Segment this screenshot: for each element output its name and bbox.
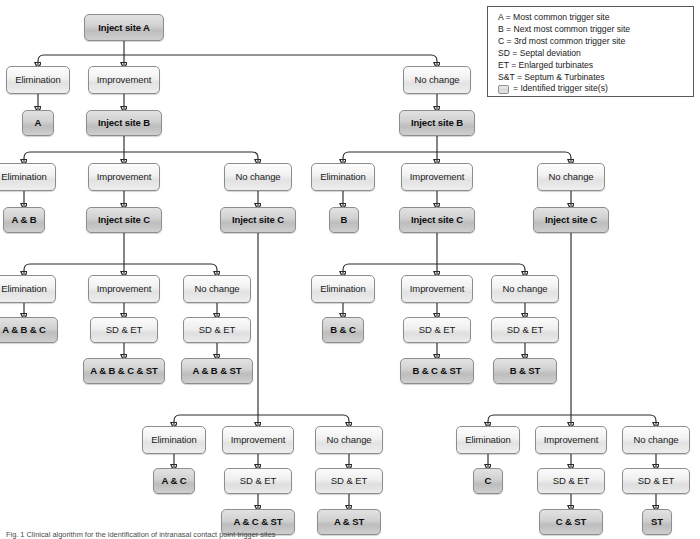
node-l3b-sd-et-improvement[interactable]: SD & ET	[403, 317, 471, 343]
node-l1-no-change[interactable]: No change	[403, 66, 471, 94]
node-l1-improvement[interactable]: Improvement	[88, 66, 160, 94]
node-l2b-inject-site-c[interactable]: Inject site C	[399, 207, 475, 233]
node-l3a-outcome-abc[interactable]: A & B & C	[0, 317, 58, 343]
node-l3a-sd-et-improvement[interactable]: SD & ET	[90, 317, 158, 343]
node-l1-inject-site-b[interactable]: Inject site B	[86, 110, 162, 136]
node-l2a-elimination[interactable]: Elimination	[0, 163, 56, 191]
node-l3b-elimination[interactable]: Elimination	[311, 275, 375, 303]
node-l2b-outcome-b[interactable]: B	[329, 207, 359, 233]
legend-row-b: B = Next most common trigger site	[498, 24, 693, 36]
node-l1-inject-site-b-right[interactable]: Inject site B	[399, 110, 475, 136]
node-l2a-inject-site-c-right[interactable]: Inject site C	[220, 207, 296, 233]
node-l4a-sd-et-no-change[interactable]: SD & ET	[315, 468, 383, 494]
node-l4b-sd-et-no-change[interactable]: SD & ET	[622, 468, 690, 494]
node-l2b-elimination[interactable]: Elimination	[311, 163, 375, 191]
legend-text-trigger-site: = Identified trigger site(s)	[513, 83, 608, 95]
node-l3b-improvement[interactable]: Improvement	[401, 275, 473, 303]
node-l4b-improvement[interactable]: Improvement	[535, 426, 607, 454]
node-l3b-outcome-bc[interactable]: B & C	[322, 317, 364, 343]
legend-row-a: A = Most common trigger site	[498, 12, 693, 24]
legend-row-trigger-site: = Identified trigger site(s)	[498, 83, 693, 95]
node-l3a-no-change[interactable]: No change	[183, 275, 251, 303]
node-l3a-outcome-abcst[interactable]: A & B & C & ST	[83, 358, 165, 384]
node-l3a-outcome-abst[interactable]: A & B & ST	[181, 358, 253, 384]
legend-box: A = Most common trigger site B = Next mo…	[487, 6, 694, 97]
node-l4a-improvement[interactable]: Improvement	[222, 426, 294, 454]
node-l2b-improvement[interactable]: Improvement	[401, 163, 473, 191]
node-l1-elimination[interactable]: Elimination	[6, 66, 70, 94]
legend-text-et: ET = Enlarged turbinates	[498, 60, 593, 72]
node-l4b-no-change[interactable]: No change	[622, 426, 690, 454]
node-l4b-sd-et-improvement[interactable]: SD & ET	[537, 468, 605, 494]
legend-row-et: ET = Enlarged turbinates	[498, 60, 693, 72]
trigger-site-swatch-icon	[498, 85, 509, 94]
node-l2a-outcome-ab[interactable]: A & B	[3, 207, 45, 233]
legend-row-c: C = 3rd most common trigger site	[498, 36, 693, 48]
node-l4a-no-change[interactable]: No change	[315, 426, 383, 454]
node-l3a-elimination[interactable]: Elimination	[0, 275, 56, 303]
flowchart-canvas: Inject site A Elimination Improvement No…	[0, 0, 700, 539]
node-l3b-outcome-bcst[interactable]: B & C & ST	[400, 358, 474, 384]
node-l3a-sd-et-no-change[interactable]: SD & ET	[183, 317, 251, 343]
node-l4a-elimination[interactable]: Elimination	[142, 426, 206, 454]
node-l4b-outcome-c[interactable]: C	[473, 468, 503, 494]
legend-text-sd: SD = Septal deviation	[498, 48, 581, 60]
legend-text-a: A = Most common trigger site	[498, 12, 610, 24]
node-inject-site-a[interactable]: Inject site A	[84, 14, 164, 41]
legend-row-st: S&T = Septum & Turbinates	[498, 72, 693, 84]
node-l2a-no-change[interactable]: No change	[224, 163, 292, 191]
node-l3b-outcome-bst[interactable]: B & ST	[493, 358, 557, 384]
node-l1-outcome-a[interactable]: A	[22, 110, 54, 136]
node-l2b-no-change[interactable]: No change	[537, 163, 605, 191]
legend-text-c: C = 3rd most common trigger site	[498, 36, 625, 48]
figure-caption: Fig. 1 Clinical algorithm for the identi…	[6, 530, 696, 539]
legend-text-b: B = Next most common trigger site	[498, 24, 630, 36]
node-l3a-improvement[interactable]: Improvement	[88, 275, 160, 303]
node-l3b-no-change[interactable]: No change	[491, 275, 559, 303]
node-l2a-inject-site-c[interactable]: Inject site C	[86, 207, 162, 233]
node-l2a-improvement[interactable]: Improvement	[88, 163, 160, 191]
node-l3b-sd-et-no-change[interactable]: SD & ET	[491, 317, 559, 343]
node-l4b-elimination[interactable]: Elimination	[456, 426, 520, 454]
node-l4a-outcome-ac[interactable]: A & C	[153, 468, 195, 494]
legend-row-sd: SD = Septal deviation	[498, 48, 693, 60]
node-l2b-inject-site-c-right[interactable]: Inject site C	[533, 207, 609, 233]
node-l4a-sd-et-improvement[interactable]: SD & ET	[224, 468, 292, 494]
legend-text-st: S&T = Septum & Turbinates	[498, 72, 605, 84]
